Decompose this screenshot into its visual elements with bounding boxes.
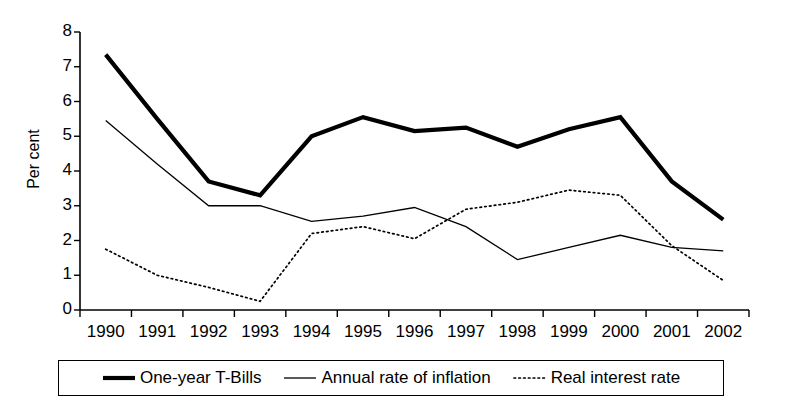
series-line-1	[106, 121, 724, 260]
x-tick-label: 1997	[439, 322, 493, 342]
thick-line-swatch	[102, 372, 136, 384]
thin-line-swatch	[283, 372, 317, 384]
legend-item-label: One-year T-Bills	[140, 368, 262, 388]
y-tick-label: 5	[46, 125, 72, 145]
x-tick-label: 2000	[593, 322, 647, 342]
series-line-0	[106, 55, 724, 220]
plot-area	[80, 32, 749, 310]
x-tick-label: 1990	[79, 322, 133, 342]
x-tick-label: 1992	[182, 322, 236, 342]
y-tick-label: 8	[46, 21, 72, 41]
y-tick-label: 0	[46, 299, 72, 319]
legend-item-label: Real interest rate	[551, 368, 680, 388]
line-chart-svg	[80, 32, 749, 310]
dotted-line-swatch	[513, 372, 547, 384]
series-line-2	[106, 190, 724, 301]
legend-item-0[interactable]: One-year T-Bills	[102, 368, 262, 388]
x-tick-label: 2002	[696, 322, 750, 342]
y-tick-label: 1	[46, 264, 72, 284]
y-tick-label: 6	[46, 91, 72, 111]
x-tick-label: 1994	[285, 322, 339, 342]
data-series-layer	[106, 55, 724, 302]
y-tick-label: 4	[46, 160, 72, 180]
legend-item-label: Annual rate of inflation	[321, 368, 490, 388]
axis-lines	[80, 32, 749, 310]
y-tick-label: 7	[46, 56, 72, 76]
y-axis-tick-marks	[74, 32, 80, 310]
x-tick-label: 1995	[336, 322, 390, 342]
x-tick-label: 2001	[645, 322, 699, 342]
y-axis-title: Per cent	[25, 99, 43, 219]
x-tick-label: 1991	[130, 322, 184, 342]
y-tick-label: 3	[46, 195, 72, 215]
x-tick-label: 1993	[233, 322, 287, 342]
x-tick-label: 1999	[542, 322, 596, 342]
legend-item-1[interactable]: Annual rate of inflation	[283, 368, 490, 388]
y-tick-label: 2	[46, 230, 72, 250]
x-tick-label: 1996	[388, 322, 442, 342]
chart-figure: Per cent 012345678 199019911992199319941…	[0, 0, 786, 411]
x-tick-label: 1998	[490, 322, 544, 342]
x-axis-tick-marks	[80, 310, 749, 317]
legend-item-2[interactable]: Real interest rate	[513, 368, 680, 388]
chart-legend: One-year T-BillsAnnual rate of inflation…	[58, 360, 724, 396]
